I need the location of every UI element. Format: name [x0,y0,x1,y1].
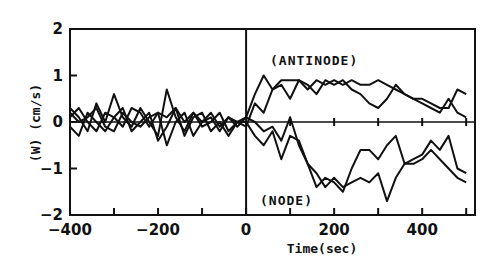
x-tick-label: −200 [136,221,180,239]
x-axis-label: Time(sec) [287,241,357,256]
y-tick-label: −2 [40,206,63,224]
y-tick-label: 1 [53,67,63,85]
node-annotation: (NODE) [260,193,313,208]
tick-labels: −400−2000200400210−1−2 [40,20,438,239]
y-axis-label: (W) (cm/s) [28,84,43,162]
y-tick-label: 2 [53,20,63,38]
antinode-annotation: (ANTINODE) [270,53,358,68]
y-tick-label: 0 [53,113,63,131]
x-tick-label: 400 [407,221,438,239]
y-tick-label: −1 [40,160,63,178]
chart-canvas: −400−2000200400210−1−2 (W) (cm/s) Time(s… [0,0,497,263]
x-tick-label: 200 [318,221,349,239]
x-tick-label: 0 [241,221,251,239]
